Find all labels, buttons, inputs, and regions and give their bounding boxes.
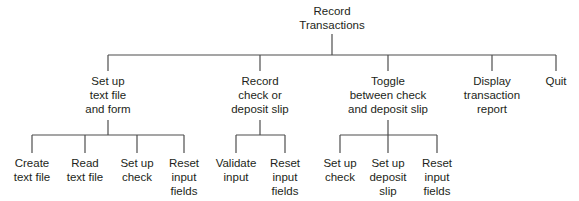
node-setup: Set up text file and form — [85, 74, 130, 116]
node-validate-input: Validate input — [216, 156, 257, 184]
node-setup-deposit: Set up deposit slip — [369, 156, 406, 198]
node-reset-fields-1: Reset input fields — [169, 156, 199, 198]
node-setup-check: Set up check — [120, 156, 153, 184]
node-reset-fields-2: Reset input fields — [270, 156, 300, 198]
node-quit: Quit — [545, 74, 566, 88]
node-reset-fields-3: Reset input fields — [422, 156, 452, 198]
node-read-text-file: Read text file — [67, 156, 103, 184]
node-create-text-file: Create text file — [14, 156, 50, 184]
node-record: Record check or deposit slip — [231, 74, 289, 116]
node-setup-check-2: Set up check — [323, 156, 356, 184]
node-root: Record Transactions — [299, 4, 364, 32]
node-display: Display transaction report — [464, 74, 520, 116]
node-toggle: Toggle between check and deposit slip — [348, 74, 428, 116]
